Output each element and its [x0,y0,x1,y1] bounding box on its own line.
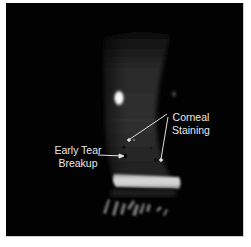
arrow-corneal-staining-2 [161,117,168,159]
slit-lamp-photo: Corneal Staining Early Tear Breakup [6,3,244,237]
label-corneal-line1: Corneal [168,111,214,124]
label-corneal-line2: Staining [168,124,214,137]
label-early-tear-breakup: Early Tear Breakup [52,144,104,170]
label-corneal-staining: Corneal Staining [168,111,214,137]
light-reflection [113,89,125,107]
label-tear-line1: Early Tear [52,144,104,157]
eyelashes [103,199,168,216]
label-tear-line2: Breakup [52,157,104,170]
